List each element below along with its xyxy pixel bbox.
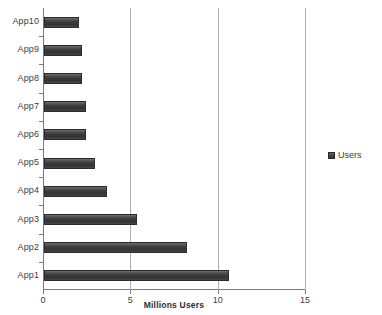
y-axis-tick bbox=[39, 262, 43, 263]
bar-app8 bbox=[44, 73, 82, 84]
x-axis-tick-15 bbox=[305, 290, 306, 294]
y-axis-label-app4: App4 bbox=[0, 185, 39, 196]
y-axis-tick bbox=[39, 36, 43, 37]
y-axis-label-app2: App2 bbox=[0, 242, 39, 253]
y-axis-label-app6: App6 bbox=[0, 129, 39, 140]
bar-app9 bbox=[44, 45, 82, 56]
gridline-10 bbox=[218, 8, 219, 290]
y-axis-label-app9: App9 bbox=[0, 44, 39, 55]
y-axis-tick bbox=[39, 121, 43, 122]
legend-swatch-users bbox=[328, 152, 335, 159]
y-axis-category-labels: App1App2App3App4App5App6App7App8App9App1… bbox=[0, 8, 39, 290]
bar-app5 bbox=[44, 158, 95, 169]
plot-area bbox=[43, 8, 305, 290]
y-axis-label-app10: App10 bbox=[0, 16, 39, 27]
bar-chart: App1App2App3App4App5App6App7App8App9App1… bbox=[0, 0, 382, 315]
bar-app6 bbox=[44, 129, 86, 140]
bar-app2 bbox=[44, 242, 187, 253]
bar-app10 bbox=[44, 17, 79, 28]
x-axis-title: Millions Users bbox=[43, 300, 305, 310]
y-axis-label-app3: App3 bbox=[0, 214, 39, 225]
y-axis-tick bbox=[39, 64, 43, 65]
y-axis-tick bbox=[39, 205, 43, 206]
x-axis-tick-5 bbox=[130, 290, 131, 294]
y-axis-tick bbox=[39, 93, 43, 94]
bar-app1 bbox=[44, 270, 229, 281]
chart-legend: Users bbox=[328, 150, 362, 161]
bar-app3 bbox=[44, 214, 137, 225]
y-axis-label-app7: App7 bbox=[0, 101, 39, 112]
y-axis-tick bbox=[39, 234, 43, 235]
legend-label-users: Users bbox=[338, 150, 362, 161]
x-axis-tick-0 bbox=[43, 290, 44, 294]
bar-app7 bbox=[44, 101, 86, 112]
gridline-15 bbox=[305, 8, 306, 290]
y-axis-tick bbox=[39, 149, 43, 150]
bar-app4 bbox=[44, 186, 107, 197]
y-axis-tick bbox=[39, 177, 43, 178]
y-axis-label-app5: App5 bbox=[0, 157, 39, 168]
x-axis-tick-10 bbox=[218, 290, 219, 294]
y-axis-label-app8: App8 bbox=[0, 73, 39, 84]
y-axis-label-app1: App1 bbox=[0, 270, 39, 281]
